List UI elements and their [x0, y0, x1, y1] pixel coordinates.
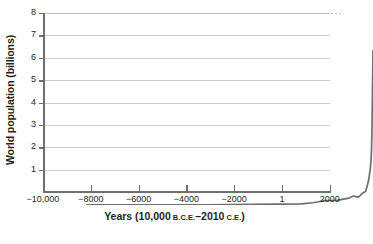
x-axis-title-prefix: Years (10,000: [104, 210, 173, 222]
x-tick-mark-2: [139, 185, 140, 192]
x-tick-mark-3: [186, 185, 187, 192]
x-axis-title-mid: 2010: [201, 210, 226, 222]
x-axis-era-end: C.E.: [227, 213, 242, 222]
x-tick-mark-6: [330, 185, 331, 192]
x-axis-title-suffix: ): [241, 210, 245, 222]
x-tick-mark-5: [282, 185, 283, 192]
x-tick-mark-0: [43, 185, 44, 192]
x-axis-era-start: B.C.E.: [173, 213, 195, 222]
x-tick-mark-4: [234, 185, 235, 192]
x-axis-title: Years (10,000 B.C.E.–2010 C.E.): [0, 210, 349, 222]
x-tick-label-6: 2000: [300, 194, 360, 204]
x-tick-mark-1: [91, 185, 92, 192]
